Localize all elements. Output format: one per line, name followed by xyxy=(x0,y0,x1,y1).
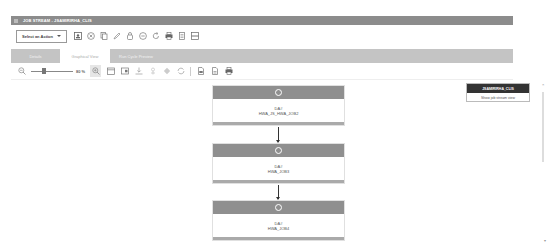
edit-icon[interactable] xyxy=(113,32,121,40)
tab-graphical-view[interactable]: Graphical View xyxy=(60,49,110,63)
rerun-icon[interactable] xyxy=(152,32,160,40)
hold-icon[interactable] xyxy=(126,32,134,40)
graph-canvas[interactable]: DA# HWA_JS_HWA_JOB2 DA# HWA_JOB3 DA# HWA… xyxy=(11,81,541,248)
tab-run-cycle-preview[interactable]: Run Cycle Preview xyxy=(110,49,162,63)
dependency-arrow xyxy=(278,185,279,199)
resize-handle-icon[interactable]: ▾ xyxy=(544,238,546,243)
copy-icon[interactable] xyxy=(100,32,108,40)
toolbar-divider xyxy=(190,67,191,76)
node-footer xyxy=(213,237,344,240)
view-toolbar: 80 % xyxy=(11,63,513,80)
job-gear-icon xyxy=(275,89,282,96)
release-icon[interactable] xyxy=(139,32,147,40)
window-icon[interactable] xyxy=(120,67,129,76)
zoom-slider-track xyxy=(31,71,73,72)
node-body: DA# HWA_JS_HWA_JOB2 xyxy=(213,99,344,122)
download-icon[interactable] xyxy=(134,67,143,76)
dependency-arrow xyxy=(278,127,279,142)
diamond-icon[interactable] xyxy=(162,67,171,76)
job-gear-icon xyxy=(275,204,282,211)
print-icon[interactable] xyxy=(224,67,233,76)
show-job-stream-view-link[interactable]: Show job stream view xyxy=(467,93,529,102)
node-header xyxy=(213,201,344,214)
node-footer xyxy=(213,180,344,183)
job-node[interactable]: DA# HWA_JOB3 xyxy=(212,143,345,184)
zoom-out-icon[interactable] xyxy=(17,67,26,76)
document-icon[interactable] xyxy=(178,32,186,40)
close-icon[interactable]: × xyxy=(542,82,544,87)
window-title: JOB STREAM - JSAMIRIRHA_CLIS xyxy=(23,18,92,23)
app-root: JOB STREAM - JSAMIRIRHA_CLIS Select an A… xyxy=(0,0,555,248)
zoom-slider[interactable] xyxy=(31,68,73,74)
popup-title: JSAMIRIRHA_CLIS xyxy=(467,84,529,93)
job-node[interactable]: DA# HWA_JS_HWA_JOB2 xyxy=(212,85,345,126)
node-name: HWA_JS_HWA_JOB2 xyxy=(259,111,299,116)
action-icons xyxy=(74,32,199,40)
export-file-icon[interactable] xyxy=(210,67,219,76)
node-header xyxy=(213,86,344,99)
vertical-scrollbar[interactable] xyxy=(542,92,544,162)
collapse-icon[interactable] xyxy=(14,19,18,23)
node-body: DA# HWA_JOB4 xyxy=(213,214,344,237)
zoom-percent: 80 % xyxy=(76,69,85,74)
node-footer xyxy=(213,122,344,125)
refresh-icon[interactable] xyxy=(176,67,185,76)
action-toolbar: Select an Action xyxy=(11,25,513,47)
node-name: HWA_JOB4 xyxy=(268,226,289,231)
calendar-icon[interactable] xyxy=(106,67,115,76)
select-action-label: Select an Action xyxy=(22,34,53,39)
zoom-slider-thumb[interactable] xyxy=(42,68,46,74)
cancel-icon[interactable] xyxy=(87,32,95,40)
select-action-dropdown[interactable]: Select an Action xyxy=(16,30,67,43)
print-icon[interactable] xyxy=(165,32,173,40)
chevron-down-icon xyxy=(57,35,61,37)
job-stream-popup: JSAMIRIRHA_CLIS Show job stream view xyxy=(466,83,530,102)
tab-bar: Details Graphical View Run Cycle Preview xyxy=(11,49,513,63)
node-body: DA# HWA_JOB3 xyxy=(213,157,344,180)
properties-icon[interactable] xyxy=(74,32,82,40)
tab-details[interactable]: Details xyxy=(11,49,60,63)
export-pdf-icon[interactable] xyxy=(196,67,205,76)
zoom-fit-icon[interactable] xyxy=(90,65,101,77)
dependency-icon[interactable] xyxy=(148,67,157,76)
window-titlebar: JOB STREAM - JSAMIRIRHA_CLIS xyxy=(11,16,513,25)
node-name: HWA_JOB3 xyxy=(268,169,289,174)
node-header xyxy=(213,144,344,157)
job-gear-icon xyxy=(275,147,282,154)
job-node[interactable]: DA# HWA_JOB4 xyxy=(212,200,345,241)
layout-icon[interactable] xyxy=(191,32,199,40)
